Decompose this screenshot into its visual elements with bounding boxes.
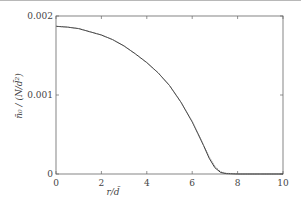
y-axis-label: n̄₀ / (N/d̄²) xyxy=(13,73,24,119)
data-series xyxy=(56,26,283,174)
y-tick-label: 0 xyxy=(47,169,53,179)
series-solid xyxy=(56,26,283,174)
x-tick-label: 2 xyxy=(99,178,105,188)
line-chart: 024681000.0010.002 r/d̄ n̄₀ / (N/d̄²) xyxy=(0,0,301,208)
x-tick-label: 4 xyxy=(144,178,150,188)
series-dotted xyxy=(56,26,283,174)
x-tick-label: 0 xyxy=(53,178,59,188)
x-axis-label: r/d̄ xyxy=(106,186,121,197)
axis-ticks: 024681000.0010.002 xyxy=(27,11,289,188)
y-tick-label: 0.002 xyxy=(27,11,53,21)
x-tick-label: 6 xyxy=(189,178,195,188)
x-tick-label: 8 xyxy=(235,178,241,188)
plot-frame xyxy=(56,16,283,174)
plot-area xyxy=(56,16,283,174)
y-tick-label: 0.001 xyxy=(27,90,53,100)
x-tick-label: 10 xyxy=(277,178,289,188)
